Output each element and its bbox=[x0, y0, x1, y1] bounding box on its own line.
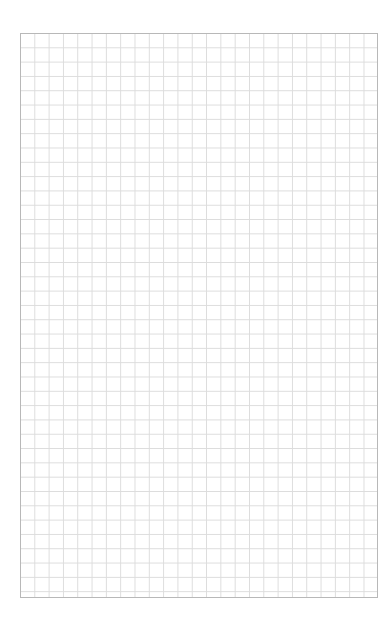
grid-paper-sheet bbox=[20, 33, 378, 598]
